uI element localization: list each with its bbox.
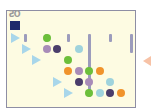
launcher-triangle-icon[interactable] bbox=[11, 33, 20, 43]
game-logo: ƧO bbox=[9, 11, 20, 19]
launcher-triangle-icon[interactable] bbox=[53, 77, 62, 87]
divider-bar bbox=[109, 34, 112, 42]
ball-orange[interactable] bbox=[96, 67, 104, 75]
ball-orange[interactable] bbox=[117, 89, 125, 97]
launcher-triangle-icon[interactable] bbox=[64, 88, 73, 98]
selected-square[interactable] bbox=[10, 21, 20, 30]
launcher-triangle-icon[interactable] bbox=[32, 55, 41, 65]
divider-bar bbox=[88, 34, 91, 97]
ball-green[interactable] bbox=[43, 34, 51, 42]
divider-bar bbox=[67, 34, 70, 42]
ball-dark-purple[interactable] bbox=[75, 78, 83, 86]
ball-purple[interactable] bbox=[43, 45, 51, 53]
ball-orange[interactable] bbox=[64, 67, 72, 75]
ball-purple[interactable] bbox=[75, 67, 83, 75]
ball-light-blue[interactable] bbox=[96, 89, 104, 97]
divider-bar bbox=[130, 34, 133, 53]
ball-light-blue[interactable] bbox=[75, 45, 83, 53]
launcher-triangle-icon[interactable] bbox=[22, 44, 31, 54]
divider-bar bbox=[24, 34, 27, 42]
ball-green[interactable] bbox=[64, 56, 72, 64]
exit-arrow-icon[interactable] bbox=[143, 56, 151, 66]
